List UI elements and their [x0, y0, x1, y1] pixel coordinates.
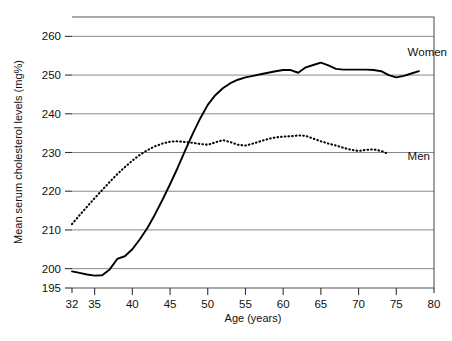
x-tick-label: 70	[352, 298, 365, 310]
y-axis-title: Mean serum cholesterol levels (mg%)	[12, 60, 24, 244]
y-tick-label: 240	[42, 108, 61, 120]
y-tick-label: 220	[42, 185, 61, 197]
y-tick-label: 195	[42, 282, 61, 294]
cholesterol-line-chart: 195200210220230240250260 323540455055606…	[0, 0, 452, 341]
y-axis-ticks	[65, 36, 72, 288]
chart-container: 195200210220230240250260 323540455055606…	[0, 0, 452, 341]
y-tick-label: 250	[42, 69, 61, 81]
x-tick-label: 50	[201, 298, 214, 310]
x-tick-label: 55	[239, 298, 252, 310]
series-label-men: Men	[408, 150, 430, 162]
y-tick-label: 230	[42, 147, 61, 159]
y-tick-label: 260	[42, 30, 61, 42]
x-tick-label: 35	[88, 298, 101, 310]
y-tick-label: 200	[42, 263, 61, 275]
y-tick-label: 210	[42, 224, 61, 236]
x-axis-title: Age (years)	[225, 312, 282, 324]
x-tick-label: 40	[126, 298, 139, 310]
x-tick-label: 65	[314, 298, 327, 310]
x-tick-label: 60	[277, 298, 290, 310]
x-axis-tick-labels: 3235404550556065707580	[66, 298, 441, 310]
x-axis-ticks	[72, 288, 434, 295]
series-label-women: Women	[408, 46, 447, 58]
x-tick-label: 80	[428, 298, 441, 310]
y-axis-tick-labels: 195200210220230240250260	[42, 30, 61, 294]
x-tick-label: 75	[390, 298, 403, 310]
x-tick-label: 45	[164, 298, 177, 310]
x-tick-label: 32	[66, 298, 79, 310]
